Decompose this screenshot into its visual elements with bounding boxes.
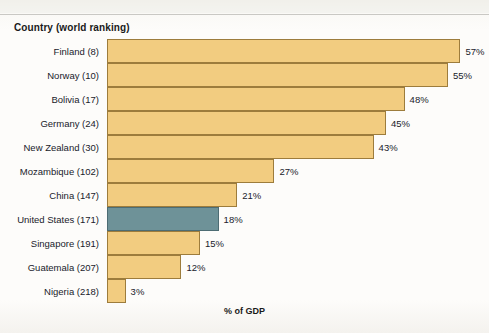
bar-row: Bolivia (17)48% bbox=[0, 87, 489, 111]
bar-value-label: 45% bbox=[391, 111, 410, 135]
category-label: China (147) bbox=[0, 183, 104, 207]
bar-value-label: 15% bbox=[205, 231, 224, 255]
bar bbox=[107, 111, 386, 135]
page-margin-artifact bbox=[0, 0, 489, 13]
category-label: New Zealand (30) bbox=[0, 135, 104, 159]
bar-row: Germany (24)45% bbox=[0, 111, 489, 135]
bar-value-label: 43% bbox=[379, 135, 398, 159]
plot-area: Finland (8)57%Norway (10)55%Bolivia (17)… bbox=[0, 39, 489, 303]
bar bbox=[107, 63, 448, 87]
category-label: Bolivia (17) bbox=[0, 87, 104, 111]
category-label: Mozambique (102) bbox=[0, 159, 104, 183]
bar bbox=[107, 279, 126, 303]
bar-value-label: 12% bbox=[186, 255, 205, 279]
bar bbox=[107, 135, 374, 159]
bar-row: United States (171)18% bbox=[0, 207, 489, 231]
bar-value-label: 21% bbox=[242, 183, 261, 207]
category-label: Germany (24) bbox=[0, 111, 104, 135]
bar-row: Norway (10)55% bbox=[0, 63, 489, 87]
category-label: Norway (10) bbox=[0, 63, 104, 87]
bar bbox=[107, 39, 460, 63]
category-axis-header: Country (world ranking) bbox=[14, 22, 130, 33]
category-label: Nigeria (218) bbox=[0, 279, 104, 303]
bar-chart: Country (world ranking) Finland (8)57%No… bbox=[0, 14, 489, 333]
bar-row: Finland (8)57% bbox=[0, 39, 489, 63]
bar-value-label: 48% bbox=[410, 87, 429, 111]
x-axis-label: % of GDP bbox=[0, 306, 489, 316]
bar-row: New Zealand (30)43% bbox=[0, 135, 489, 159]
bar-row: Singapore (191)15% bbox=[0, 231, 489, 255]
bar bbox=[107, 255, 181, 279]
bar bbox=[107, 87, 405, 111]
bar bbox=[107, 183, 237, 207]
bar bbox=[107, 231, 200, 255]
bar-highlighted bbox=[107, 207, 219, 231]
bar-value-label: 57% bbox=[465, 39, 484, 63]
category-label: United States (171) bbox=[0, 207, 104, 231]
bar-value-label: 3% bbox=[131, 279, 145, 303]
bar-row: Mozambique (102)27% bbox=[0, 159, 489, 183]
bar-row: Guatemala (207)12% bbox=[0, 255, 489, 279]
bar-value-label: 27% bbox=[279, 159, 298, 183]
bar-value-label: 18% bbox=[224, 207, 243, 231]
bar-row: Nigeria (218)3% bbox=[0, 279, 489, 303]
category-label: Finland (8) bbox=[0, 39, 104, 63]
bar bbox=[107, 159, 274, 183]
bar-row: China (147)21% bbox=[0, 183, 489, 207]
category-label: Guatemala (207) bbox=[0, 255, 104, 279]
bar-value-label: 55% bbox=[453, 63, 472, 87]
category-label: Singapore (191) bbox=[0, 231, 104, 255]
